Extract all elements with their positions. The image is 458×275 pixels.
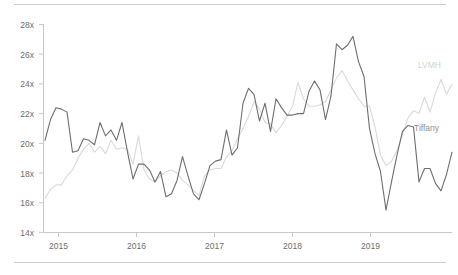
- y-tick-label-28x: 28x: [8, 20, 34, 30]
- y-tick-label-20x: 20x: [8, 139, 34, 149]
- y-tick-label-18x: 18x: [8, 169, 34, 179]
- y-tick-label-14x: 14x: [8, 228, 34, 238]
- x-tick-label-2017: 2017: [197, 241, 233, 251]
- x-tick-label-2018: 2018: [275, 241, 311, 251]
- series-line-tiffany: [45, 36, 452, 210]
- series-label-lvmh: LVMH: [418, 60, 441, 70]
- x-tick-label-2016: 2016: [119, 241, 155, 251]
- chart-figure: 28x 26x 24x 22x 20x 18x 16x 14x 2015 201…: [0, 0, 458, 275]
- chart-axes: [39, 24, 452, 237]
- x-tick-label-2019: 2019: [353, 241, 389, 251]
- line-chart-plot: [0, 0, 458, 275]
- y-tick-label-16x: 16x: [8, 198, 34, 208]
- x-tick-label-2015: 2015: [41, 241, 77, 251]
- y-tick-label-24x: 24x: [8, 79, 34, 89]
- x-axis-ticks: [59, 233, 371, 238]
- y-axis-ticks: [39, 25, 44, 233]
- series-label-tiffany: Tiffany: [414, 123, 439, 133]
- y-tick-label-22x: 22x: [8, 109, 34, 119]
- y-tick-label-26x: 26x: [8, 50, 34, 60]
